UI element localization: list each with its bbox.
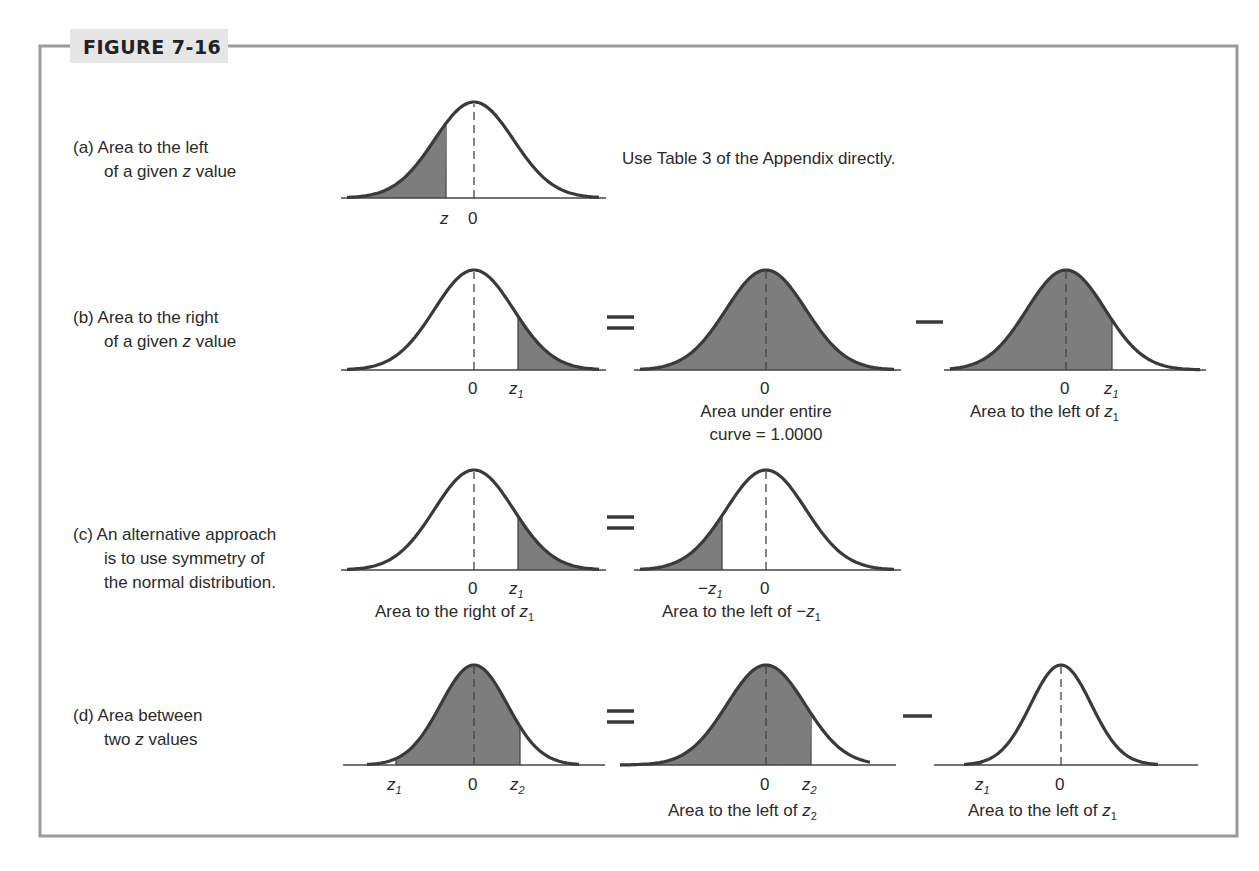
row-c-label-line3: the normal distribution. <box>104 573 276 592</box>
row-c: (c) An alternative approach is to use sy… <box>73 470 901 623</box>
tick-z1: z1 <box>386 775 402 796</box>
caption-left-of-z1: Area to the left of z1 <box>968 801 1117 822</box>
tick-zero: 0 <box>1060 379 1069 398</box>
normal-curve-c2 <box>634 470 901 570</box>
tick-zero: 0 <box>468 775 477 794</box>
shaded-area <box>518 516 600 570</box>
shaded-area <box>347 125 446 198</box>
shaded-area <box>640 270 895 370</box>
tick-zero: 0 <box>468 379 477 398</box>
normal-curve-b3 <box>944 270 1206 370</box>
normal-curve-c1 <box>341 470 606 570</box>
row-b-label-line1: (b) Area to the right <box>73 308 219 327</box>
caption-area-entire-line2: curve = 1.0000 <box>710 425 823 444</box>
normal-curve-d2 <box>620 665 896 765</box>
row-a-note: Use Table 3 of the Appendix directly. <box>622 149 895 168</box>
shaded-area <box>620 665 811 765</box>
tick-z1: z1 <box>508 579 524 600</box>
tick-z2: z2 <box>801 775 817 796</box>
caption-left-of-z2: Area to the left of z2 <box>668 801 817 822</box>
figure-7-16: FIGURE 7-16 (a) Area to the left of a gi… <box>0 0 1259 871</box>
tick-z1: z1 <box>1103 379 1119 400</box>
shaded-area <box>640 516 722 570</box>
normal-curve-d3 <box>934 665 1198 765</box>
tick-z2: z2 <box>509 775 525 796</box>
bell-curve <box>347 102 599 197</box>
normal-curve-d1 <box>343 665 605 765</box>
tick-zero: 0 <box>760 775 769 794</box>
row-d: (d) Area between two z values z1 0 z2 0 … <box>73 665 1198 822</box>
normal-curve-b2 <box>634 270 901 370</box>
figure-title: FIGURE 7-16 <box>83 36 221 58</box>
row-a: (a) Area to the left of a given z value … <box>73 102 895 228</box>
tick-zero: 0 <box>760 579 769 598</box>
row-d-label-line2: two z values <box>104 730 198 749</box>
row-c-label-line2: is to use symmetry of <box>104 549 265 568</box>
tick-z1: z1 <box>508 379 524 400</box>
normal-curve-b1 <box>341 270 606 370</box>
caption-right-of-z1: Area to the right of z1 <box>375 602 534 623</box>
row-b: (b) Area to the right of a given z value… <box>73 270 1206 444</box>
bell-curve <box>347 270 599 369</box>
tick-zero: 0 <box>468 579 477 598</box>
tick-zero: 0 <box>468 209 477 228</box>
row-b-label-line2: of a given z value <box>104 332 236 351</box>
tick-z: z <box>439 209 449 228</box>
equals-operator <box>607 517 634 528</box>
row-c-label-line1: (c) An alternative approach <box>73 525 276 544</box>
equals-operator <box>607 711 634 722</box>
row-d-label-line1: (d) Area between <box>73 706 202 725</box>
caption-left-of-neg-z1: Area to the left of −z1 <box>662 602 821 623</box>
bell-curve <box>347 470 599 569</box>
row-a-label-line1: (a) Area to the left <box>73 138 208 157</box>
caption-left-of-z1: Area to the left of z1 <box>970 402 1119 423</box>
equals-operator <box>607 317 634 328</box>
bell-curve <box>640 470 894 569</box>
tick-zero: 0 <box>1055 775 1064 794</box>
shaded-area <box>396 665 520 765</box>
shaded-area <box>518 316 600 370</box>
tick-z1: z1 <box>974 775 990 796</box>
tick-zero: 0 <box>760 379 769 398</box>
tick-neg-z1: −z1 <box>698 579 723 600</box>
caption-area-entire-line1: Area under entire <box>700 402 831 421</box>
row-a-label-line2: of a given z value <box>104 162 236 181</box>
normal-curve-a <box>341 102 606 198</box>
